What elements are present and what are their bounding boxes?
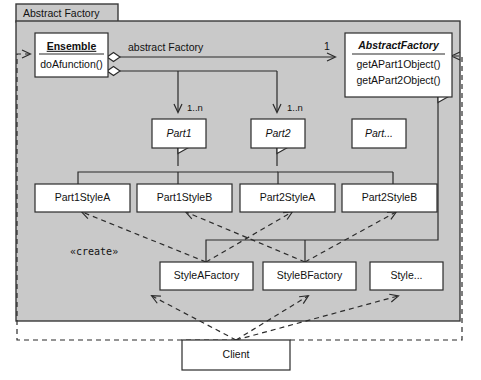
class-stylebfactory[interactable]: StyleBFactory [263, 262, 356, 290]
multiplicity-one-label: 1 [324, 40, 330, 52]
class-part1stylea-name: Part1StyleA [55, 191, 110, 203]
class-part1-name: Part1 [166, 127, 191, 139]
stereotype-create-label: «create» [70, 246, 118, 257]
package-name-label: Abstract Factory [23, 7, 100, 19]
class-client[interactable]: Client [182, 340, 290, 370]
class-styleafactory[interactable]: StyleAFactory [160, 262, 253, 290]
class-part2styleb[interactable]: Part2StyleB [342, 184, 437, 212]
class-abstractfactory-method-0: getAPart1Object() [356, 58, 440, 70]
class-part-more-name: Part... [365, 127, 393, 139]
multiplicity-part1-label: 1..n [187, 102, 203, 113]
class-abstractfactory[interactable]: AbstractFactory getAPart1Object() getAPa… [345, 33, 452, 97]
abstract-factory-uml-svg: Abstract Factory abstract Factory 1 1..n… [0, 0, 481, 380]
class-part1styleb[interactable]: Part1StyleB [137, 184, 232, 212]
class-part-more[interactable]: Part... [352, 119, 406, 148]
class-style-more[interactable]: Style... [370, 262, 443, 290]
class-part2-name: Part2 [265, 127, 290, 139]
class-ensemble[interactable]: Ensemble doAfunction() [35, 33, 108, 77]
class-part2stylea-name: Part2StyleA [260, 191, 315, 203]
class-abstractfactory-method-1: getAPart2Object() [356, 74, 440, 86]
association-role-label: abstract Factory [128, 41, 204, 53]
class-part1[interactable]: Part1 [152, 119, 206, 148]
class-part1stylea[interactable]: Part1StyleA [35, 184, 130, 212]
class-styleafactory-name: StyleAFactory [174, 269, 240, 281]
class-part2stylea[interactable]: Part2StyleA [240, 184, 335, 212]
multiplicity-part2-label: 1..n [287, 102, 303, 113]
class-ensemble-method-0: doAfunction() [40, 58, 102, 70]
class-client-name: Client [223, 348, 250, 360]
class-style-more-name: Style... [390, 269, 422, 281]
class-part1styleb-name: Part1StyleB [157, 191, 212, 203]
class-stylebfactory-name: StyleBFactory [277, 269, 343, 281]
class-part2styleb-name: Part2StyleB [362, 191, 417, 203]
uml-diagram-canvas: Abstract Factory abstract Factory 1 1..n… [0, 0, 481, 380]
class-ensemble-name: Ensemble [47, 40, 97, 52]
class-abstractfactory-name: AbstractFactory [357, 39, 440, 51]
class-part2[interactable]: Part2 [251, 119, 305, 148]
